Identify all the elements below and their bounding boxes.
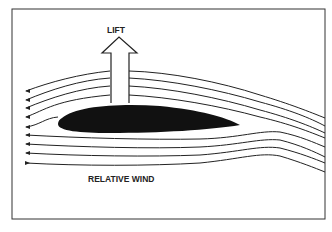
relative-wind-label: RELATIVE WIND — [88, 174, 154, 184]
lift-diagram: LIFT RELATIVE WIND — [0, 0, 332, 232]
lift-label: LIFT — [107, 25, 126, 35]
